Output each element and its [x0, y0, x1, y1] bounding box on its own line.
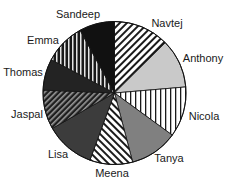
pie-chart: NavtejAnthonyNicolaTanyaMeenaLisaJaspalT… [0, 0, 228, 183]
slice-label-sandeep: Sandeep [56, 8, 100, 20]
pie-slices [43, 22, 186, 165]
slice-label-thomas: Thomas [3, 66, 43, 78]
slice-label-navtej: Navtej [151, 17, 182, 29]
slice-label-lisa: Lisa [48, 148, 69, 160]
slice-label-meena: Meena [95, 167, 130, 179]
slice-label-jaspal: Jaspal [11, 108, 43, 120]
slice-label-tanya: Tanya [154, 152, 184, 164]
slice-label-nicola: Nicola [189, 110, 220, 122]
slice-label-emma: Emma [27, 34, 60, 46]
slice-label-anthony: Anthony [183, 52, 224, 64]
